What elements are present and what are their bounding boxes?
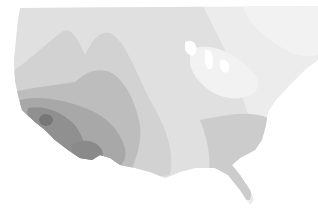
- land-area: [0, 0, 318, 210]
- contour-map: [0, 0, 318, 210]
- contour-level-7: [39, 114, 53, 126]
- southeast-band: [200, 114, 268, 200]
- map-canvas: [0, 0, 318, 210]
